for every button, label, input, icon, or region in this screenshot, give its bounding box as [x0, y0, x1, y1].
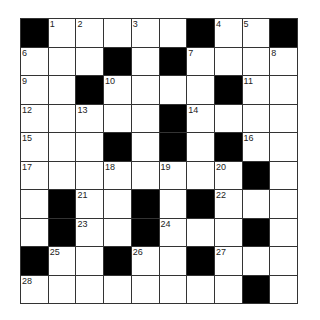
- crossword-cell[interactable]: 1: [49, 19, 76, 47]
- crossword-cell[interactable]: [104, 190, 131, 218]
- crossword-cell[interactable]: [160, 276, 187, 304]
- crossword-cell[interactable]: 10: [104, 76, 131, 104]
- crossword-cell[interactable]: [270, 105, 297, 133]
- crossword-cell[interactable]: [270, 76, 297, 104]
- crossword-cell[interactable]: [243, 247, 270, 275]
- crossword-cell[interactable]: [21, 190, 48, 218]
- crossword-cell[interactable]: 2: [76, 19, 103, 47]
- black-square: [187, 247, 214, 275]
- crossword-cell[interactable]: [104, 19, 131, 47]
- crossword-cell[interactable]: [49, 48, 76, 76]
- crossword-cell[interactable]: 19: [160, 162, 187, 190]
- clue-number: 23: [77, 219, 87, 229]
- crossword-cell[interactable]: [160, 190, 187, 218]
- crossword-cell[interactable]: 3: [132, 19, 159, 47]
- crossword-cell[interactable]: [187, 133, 214, 161]
- crossword-cell[interactable]: [270, 247, 297, 275]
- black-square: [160, 133, 187, 161]
- crossword-cell[interactable]: 22: [215, 190, 242, 218]
- crossword-cell[interactable]: 13: [76, 105, 103, 133]
- crossword-cell[interactable]: 25: [49, 247, 76, 275]
- crossword-cell[interactable]: [49, 133, 76, 161]
- clue-number: 2: [77, 19, 82, 29]
- crossword-cell[interactable]: [104, 219, 131, 247]
- crossword-cell[interactable]: 12: [21, 105, 48, 133]
- crossword-cell[interactable]: [49, 162, 76, 190]
- crossword-cell[interactable]: 24: [160, 219, 187, 247]
- crossword-cell[interactable]: 5: [243, 19, 270, 47]
- crossword-cell[interactable]: [104, 276, 131, 304]
- crossword-cell[interactable]: 16: [243, 133, 270, 161]
- crossword-cell[interactable]: 6: [21, 48, 48, 76]
- crossword-cell[interactable]: [270, 190, 297, 218]
- crossword-cell[interactable]: [76, 133, 103, 161]
- crossword-cell[interactable]: [132, 76, 159, 104]
- crossword-cell[interactable]: [243, 105, 270, 133]
- crossword-cell[interactable]: [243, 48, 270, 76]
- crossword-cell[interactable]: 4: [215, 19, 242, 47]
- crossword-cell[interactable]: [132, 162, 159, 190]
- crossword-cell[interactable]: [270, 219, 297, 247]
- clue-number: 13: [77, 105, 87, 115]
- crossword-cell[interactable]: 20: [215, 162, 242, 190]
- crossword-cell[interactable]: 17: [21, 162, 48, 190]
- crossword-cell[interactable]: 27: [215, 247, 242, 275]
- black-square: [21, 247, 48, 275]
- black-square: [76, 76, 103, 104]
- crossword-cell[interactable]: 21: [76, 190, 103, 218]
- black-square: [49, 190, 76, 218]
- crossword-cell[interactable]: [160, 247, 187, 275]
- crossword-cell[interactable]: [187, 276, 214, 304]
- black-square: [243, 162, 270, 190]
- crossword-cell[interactable]: [270, 276, 297, 304]
- black-square: [215, 76, 242, 104]
- crossword-cell[interactable]: [215, 48, 242, 76]
- crossword-cell[interactable]: 26: [132, 247, 159, 275]
- crossword-cell[interactable]: [187, 76, 214, 104]
- crossword-cell[interactable]: [76, 247, 103, 275]
- crossword-cell[interactable]: [49, 105, 76, 133]
- crossword-cell[interactable]: [132, 133, 159, 161]
- crossword-cell[interactable]: [21, 219, 48, 247]
- crossword-cell[interactable]: [132, 276, 159, 304]
- clue-number: 21: [77, 190, 87, 200]
- clue-number: 16: [244, 133, 254, 143]
- crossword-cell[interactable]: [76, 162, 103, 190]
- crossword-cell[interactable]: [49, 276, 76, 304]
- crossword-cell[interactable]: 11: [243, 76, 270, 104]
- crossword-cell[interactable]: 23: [76, 219, 103, 247]
- crossword-cell[interactable]: 7: [187, 48, 214, 76]
- black-square: [160, 48, 187, 76]
- crossword-cell[interactable]: 18: [104, 162, 131, 190]
- crossword-cell[interactable]: [215, 276, 242, 304]
- clue-number: 19: [161, 162, 171, 172]
- black-square: [243, 219, 270, 247]
- black-square: [104, 133, 131, 161]
- clue-number: 9: [22, 76, 27, 86]
- crossword-cell[interactable]: 15: [21, 133, 48, 161]
- crossword-cell[interactable]: [76, 48, 103, 76]
- black-square: [243, 276, 270, 304]
- crossword-cell[interactable]: [270, 162, 297, 190]
- crossword-cell[interactable]: [270, 133, 297, 161]
- crossword-cell[interactable]: [160, 19, 187, 47]
- clue-number: 14: [188, 105, 198, 115]
- crossword-cell[interactable]: [160, 76, 187, 104]
- crossword-cell[interactable]: [132, 105, 159, 133]
- clue-number: 3: [133, 19, 138, 29]
- crossword-cell[interactable]: 14: [187, 105, 214, 133]
- crossword-cell[interactable]: [132, 48, 159, 76]
- crossword-cell[interactable]: [215, 105, 242, 133]
- crossword-cell[interactable]: 8: [270, 48, 297, 76]
- crossword-cell[interactable]: [76, 276, 103, 304]
- crossword-cell[interactable]: [187, 219, 214, 247]
- clue-number: 22: [216, 190, 226, 200]
- crossword-cell[interactable]: [104, 105, 131, 133]
- crossword-cell[interactable]: 28: [21, 276, 48, 304]
- crossword-cell[interactable]: [187, 162, 214, 190]
- black-square: [187, 190, 214, 218]
- crossword-cell[interactable]: [215, 219, 242, 247]
- crossword-cell[interactable]: [49, 76, 76, 104]
- crossword-cell[interactable]: [243, 190, 270, 218]
- crossword-cell[interactable]: 9: [21, 76, 48, 104]
